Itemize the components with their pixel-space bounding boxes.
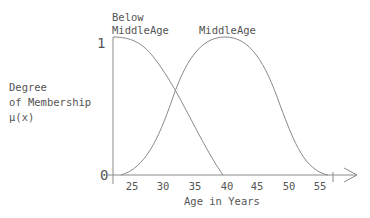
middleage-label: MiddleAge — [199, 24, 256, 36]
y-axis-label-line1: Degree — [9, 81, 47, 93]
x-tick-25: 25 — [126, 180, 139, 192]
x-axis-label: Age in Years — [184, 195, 260, 207]
x-tick-45: 45 — [251, 180, 264, 192]
y-axis-label-line2: of Membership — [9, 96, 91, 108]
x-tick-50: 50 — [283, 180, 296, 192]
y-tick-zero: 0 — [100, 167, 108, 183]
y-tick-one: 1 — [97, 35, 105, 51]
x-tick-55: 55 — [314, 180, 327, 192]
x-tick-30: 30 — [157, 180, 170, 192]
middleage-curve — [121, 37, 328, 175]
below-middleage-curve — [113, 37, 223, 175]
y-axis-label-line3: μ(x) — [9, 111, 34, 123]
below-middleage-label-line1: Below — [112, 11, 144, 23]
below-middleage-label-line2: MiddleAge — [112, 24, 169, 36]
x-tick-40: 40 — [221, 180, 234, 192]
x-tick-35: 35 — [189, 180, 202, 192]
